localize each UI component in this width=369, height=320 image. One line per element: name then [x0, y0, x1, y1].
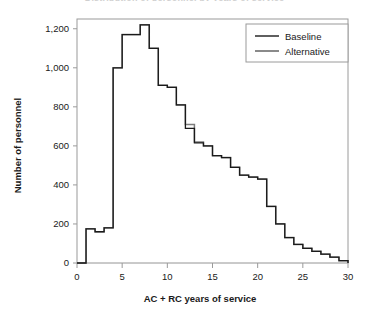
y-tick-label: 200 [53, 218, 69, 229]
y-tick-label: 1,200 [45, 23, 69, 34]
y-tick-label: 800 [53, 101, 69, 112]
y-tick-label: 600 [53, 140, 69, 151]
chart-figure: Distribution of personnel by years of se… [0, 0, 369, 320]
x-tick-label: 30 [343, 271, 354, 282]
x-tick-label: 5 [120, 271, 125, 282]
chart-plot-area: 02004006008001,0001,200051015202530Basel… [0, 0, 369, 320]
y-axis-title: Number of personnel [12, 66, 23, 226]
legend-label-alternative: Alternative [285, 46, 330, 57]
y-tick-label: 400 [53, 179, 69, 190]
x-tick-label: 0 [74, 271, 79, 282]
x-axis-title: AC + RC years of service [40, 293, 360, 304]
y-tick-label: 1,000 [45, 62, 69, 73]
legend-label-baseline: Baseline [285, 31, 321, 42]
x-tick-label: 10 [162, 271, 173, 282]
chart-title-clipped: Distribution of personnel by years of se… [0, 0, 369, 1]
x-tick-label: 20 [252, 271, 263, 282]
x-tick-label: 15 [207, 271, 218, 282]
x-tick-label: 25 [298, 271, 309, 282]
y-tick-label: 0 [64, 257, 69, 268]
